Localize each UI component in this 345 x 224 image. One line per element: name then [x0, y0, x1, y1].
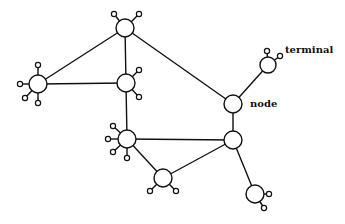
terminal-icon: [136, 94, 141, 99]
terminal-icon: [266, 191, 271, 196]
terminal-icon: [110, 123, 115, 128]
terminal-icon: [35, 100, 40, 105]
terminal-icon: [136, 11, 141, 16]
link-line: [127, 139, 233, 140]
node-circle: [224, 131, 242, 149]
terminal-icon: [264, 48, 269, 53]
link-line: [38, 28, 125, 84]
terminal-icon: [110, 149, 115, 154]
terminal-icon: [35, 62, 40, 67]
terminal-label: terminal: [285, 44, 333, 55]
node-circle: [224, 95, 242, 113]
node-circle: [246, 185, 264, 203]
terminal-icon: [124, 155, 129, 160]
terminal-icon: [17, 81, 22, 86]
terminal-icon: [136, 67, 141, 72]
terminal-icon: [261, 205, 266, 210]
node-label: node: [250, 98, 277, 109]
link-line: [163, 140, 233, 178]
terminal-icon: [111, 11, 116, 16]
terminal-stubs: [17, 11, 282, 210]
terminal-icon: [277, 53, 282, 58]
network-diagram: [0, 0, 345, 224]
terminal-icon: [173, 188, 178, 193]
node-circle: [118, 130, 136, 148]
link-line: [38, 83, 126, 84]
node-circle: [260, 57, 276, 73]
node-circle: [117, 74, 135, 92]
node-circle: [154, 169, 172, 187]
node-circle: [116, 19, 134, 37]
link-line: [125, 28, 233, 104]
node-circle: [29, 75, 47, 93]
terminal-icon: [105, 136, 110, 141]
terminal-icon: [147, 188, 152, 193]
terminal-icon: [22, 95, 27, 100]
